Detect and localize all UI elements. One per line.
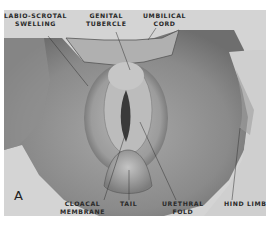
label-urethral-fold: URETHRAL FOLD [162, 200, 204, 215]
label-tail: TAIL [120, 200, 137, 208]
anatomy-illustration: LABIO-SCROTAL SWELLING GENITAL TUBERCLE … [4, 10, 266, 216]
label-line: SWELLING [4, 20, 67, 28]
label-line: UMBILICAL [143, 12, 186, 20]
label-line: CLOACAL [60, 200, 105, 208]
label-line: GENITAL [86, 12, 126, 20]
label-cloacal-membrane: CLOACAL MEMBRANE [60, 200, 105, 215]
label-line: URETHRAL [162, 200, 204, 208]
label-genital-tubercle: GENITAL TUBERCLE [86, 12, 126, 27]
panel-letter: A [14, 188, 23, 203]
label-line: MEMBRANE [60, 208, 105, 216]
label-line: TUBERCLE [86, 20, 126, 28]
label-line: FOLD [162, 208, 204, 216]
label-umbilical-cord: UMBILICAL CORD [143, 12, 186, 27]
label-line: LABIO-SCROTAL [4, 12, 67, 20]
label-hind-limb: HIND LIMB [224, 200, 266, 208]
embryo-perineum-drawing [4, 10, 266, 216]
label-labio-scrotal-swelling: LABIO-SCROTAL SWELLING [4, 12, 67, 27]
label-line: CORD [143, 20, 186, 28]
